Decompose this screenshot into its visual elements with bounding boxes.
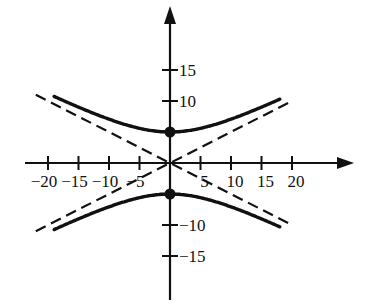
vertex-top-dot: [165, 127, 176, 138]
vertex-bottom-dot: [165, 189, 176, 200]
y-axis-arrow-icon: [164, 6, 176, 24]
hyperbola-graph: −20−15−10−55101520 1510−10−15: [0, 0, 366, 306]
y-tick-label: −15: [179, 247, 206, 266]
x-tick-label: −10: [92, 172, 119, 191]
y-tick-label: −10: [179, 216, 206, 235]
y-tick-label: 15: [179, 61, 196, 80]
x-tick-labels: −20−15−10−55101520: [31, 172, 305, 191]
x-axis-arrow-icon: [337, 157, 354, 169]
asymptote-positive-slope: [36, 101, 292, 231]
asymptote-negative-slope: [36, 95, 292, 225]
x-tick-label: −20: [31, 172, 58, 191]
x-tick-label: −15: [61, 172, 88, 191]
x-tick-label: 10: [227, 172, 244, 191]
y-tick-label: 10: [179, 92, 196, 111]
x-tick-label: 15: [257, 172, 274, 191]
x-tick-label: 20: [288, 172, 305, 191]
